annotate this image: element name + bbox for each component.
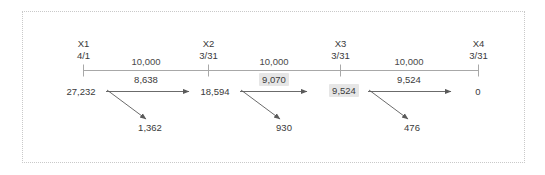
period-date: 3/31 [188,50,229,62]
principal-value: 9,070 [259,73,289,86]
balance-x3: 9,524 [320,85,368,96]
balance-value: 0 [475,86,480,97]
interest-arrow-3 [369,90,408,119]
period-date: 4/1 [63,50,104,62]
period-header-x3: X3 3/31 [320,38,361,61]
period-header-x2: X2 3/31 [188,38,229,61]
period-date: 3/31 [458,50,499,62]
payment-label-3: 10,000 [384,56,434,67]
principal-value: 8,638 [134,74,158,85]
principal-label-3: 9,524 [384,74,434,85]
period-name: X3 [320,38,361,50]
principal-label-2: 9,070 [249,74,299,85]
period-name: X1 [63,38,104,50]
balance-value: 9,524 [329,84,359,97]
balance-x2: 18,594 [191,86,239,97]
payment-label-2: 10,000 [249,56,299,67]
principal-value: 9,524 [397,74,421,85]
interest-arrow-2 [241,90,280,119]
period-date: 3/31 [320,50,361,62]
period-header-x4: X4 3/31 [458,38,499,61]
principal-label-1: 8,638 [121,74,171,85]
diagram-canvas: X1 4/1 X2 3/31 X3 3/31 X4 3/31 10,000 10… [0,0,545,175]
interest-arrow-1 [107,90,146,119]
interest-label-3: 476 [389,122,435,133]
interest-label-1: 1,362 [127,122,173,133]
balance-x1: 27,232 [57,86,105,97]
payment-label-1: 10,000 [121,56,171,67]
interest-label-2: 930 [261,122,307,133]
period-name: X2 [188,38,229,50]
balance-value: 18,594 [200,86,229,97]
period-name: X4 [458,38,499,50]
balance-x4: 0 [456,86,500,97]
period-header-x1: X1 4/1 [63,38,104,61]
balance-value: 27,232 [66,86,95,97]
